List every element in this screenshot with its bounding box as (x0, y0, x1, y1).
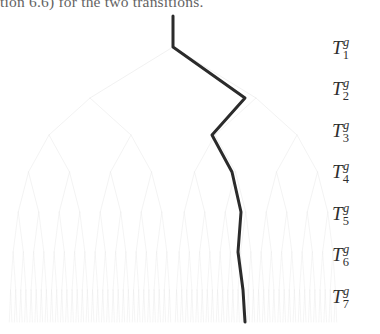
tree-branch (210, 252, 213, 290)
tree-branch (55, 290, 56, 322)
level-label-subscript: 4 (343, 172, 349, 186)
tree-branch (187, 290, 188, 322)
tree-branch (323, 212, 328, 252)
binary-tree-figure (0, 0, 380, 334)
tree-branch (262, 290, 263, 322)
tree-branch (187, 252, 190, 290)
tree-branch (136, 212, 141, 252)
tree-branch (261, 252, 264, 290)
tree-branch (54, 212, 59, 252)
level-label-superscript: g (343, 35, 349, 49)
tree-branch (228, 290, 229, 322)
tree-branch (59, 172, 69, 212)
tree-branch (192, 290, 193, 322)
tree-branch (107, 290, 108, 322)
level-label-superscript: g (343, 159, 349, 173)
tree-branch (128, 290, 129, 322)
tree-branch (70, 172, 80, 212)
tree-branch (312, 252, 315, 290)
tree-branch (40, 290, 41, 322)
tree-branch (118, 290, 119, 322)
tree-branch (96, 290, 97, 322)
tree-branch (35, 290, 36, 322)
tree-branch (13, 252, 16, 290)
tree-branch (90, 98, 131, 135)
tree-branch (257, 290, 258, 322)
level-label-base: T (332, 37, 343, 58)
level-label-6: Tg6 (332, 243, 349, 269)
tree-branch (61, 290, 62, 322)
tree-branch (206, 290, 207, 322)
tree-branch (284, 290, 285, 322)
tree-branch (34, 252, 37, 290)
tree-branch (269, 252, 272, 290)
tree-branch (117, 290, 118, 322)
tree-branch (288, 290, 289, 322)
tree-branch (200, 212, 205, 252)
tree-branch (105, 252, 108, 290)
tree-branch (221, 290, 222, 322)
tree-branch (259, 252, 262, 290)
tree-branch (52, 252, 55, 290)
tree-branch (179, 252, 182, 290)
tree-branch (319, 290, 320, 322)
tree-branch (100, 212, 105, 252)
tree-branch (238, 290, 239, 322)
tree-branch (184, 212, 189, 252)
tree-branch (329, 290, 330, 322)
tree-branch (34, 212, 39, 252)
tree-branch (9, 290, 10, 322)
tree-branch (113, 290, 114, 322)
tree-branch (266, 212, 271, 252)
tree-branch (216, 290, 217, 322)
tree-branch (137, 290, 138, 322)
tree-branch (157, 212, 162, 252)
tree-branch (132, 290, 133, 322)
tree-branch (268, 290, 269, 322)
tree-branch (191, 290, 192, 322)
tree-branch (18, 172, 28, 212)
tree-branch (91, 290, 92, 322)
tree-branch (139, 290, 140, 322)
tree-branch (314, 290, 315, 322)
tree-branch (76, 290, 77, 322)
tree-branch (39, 212, 44, 252)
tree-branch (157, 252, 160, 290)
tree-branch (66, 290, 67, 322)
tree-branch (108, 290, 109, 322)
tree-branch (146, 252, 149, 290)
tree-branch (277, 135, 298, 172)
tree-branch (149, 290, 150, 322)
tree-branch (175, 290, 176, 322)
tree-branch (201, 290, 202, 322)
tree-branch (195, 135, 216, 172)
tree-branch (154, 290, 155, 322)
tree-branch (29, 135, 50, 172)
tree-branch (182, 290, 183, 322)
tree-branch (20, 290, 21, 322)
tree-branch (45, 290, 46, 322)
tree-branch (310, 290, 311, 322)
tree-branch (227, 290, 228, 322)
level-label-4: Tg4 (332, 160, 349, 186)
tree-branch (50, 290, 51, 322)
tree-branch (21, 290, 22, 322)
tree-branch (283, 290, 284, 322)
tree-branch (180, 290, 181, 322)
tree-branch (95, 252, 98, 290)
tree-branch (186, 290, 187, 322)
level-label-5: Tg5 (332, 202, 349, 228)
tree-branch (215, 135, 236, 172)
tree-branch (141, 172, 151, 212)
tree-branch (72, 252, 75, 290)
tree-branch (75, 212, 80, 252)
tree-branch (246, 212, 251, 252)
tree-branch (197, 290, 198, 322)
tree-branch (67, 290, 68, 322)
tree-branch (279, 252, 282, 290)
tree-branch (271, 252, 274, 290)
tree-branch (177, 290, 178, 322)
level-label-subscript: 6 (343, 255, 349, 269)
tree-branch (205, 212, 210, 252)
tree-branch (127, 290, 128, 322)
